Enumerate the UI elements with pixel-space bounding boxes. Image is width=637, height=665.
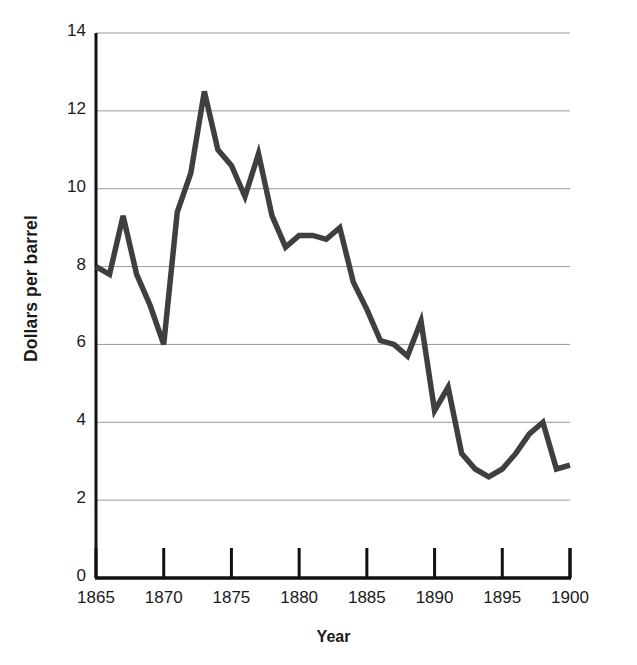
y-axis-tick-label: 12 (40, 99, 86, 119)
y-axis-title: Dollars per barrel (21, 179, 42, 399)
y-axis-tick-label: 8 (40, 255, 86, 275)
y-axis-tick-label: 6 (40, 332, 86, 352)
x-axis-tick-label: 1900 (538, 588, 602, 608)
plot-canvas (0, 0, 637, 665)
x-axis-tick-label: 1890 (403, 588, 467, 608)
x-axis-tick-label: 1865 (64, 588, 128, 608)
x-axis-tick-label: 1870 (132, 588, 196, 608)
y-axis-tick-label: 14 (40, 21, 86, 41)
x-axis-title: Year (96, 628, 571, 646)
line-chart-figure: 02468101214 1865187018751880188518901895… (0, 0, 637, 665)
data-series-line (96, 91, 570, 476)
x-axis-tick-label: 1880 (267, 588, 331, 608)
y-axis-tick-label: 0 (40, 566, 86, 586)
x-axis-tick-label: 1895 (470, 588, 534, 608)
y-axis-tick-label: 10 (40, 177, 86, 197)
x-axis-tick-label: 1885 (335, 588, 399, 608)
x-tick-group (96, 548, 570, 578)
y-axis-tick-label: 4 (40, 410, 86, 430)
y-axis-tick-label: 2 (40, 488, 86, 508)
gridline-group (96, 33, 570, 500)
x-axis-tick-label: 1875 (199, 588, 263, 608)
